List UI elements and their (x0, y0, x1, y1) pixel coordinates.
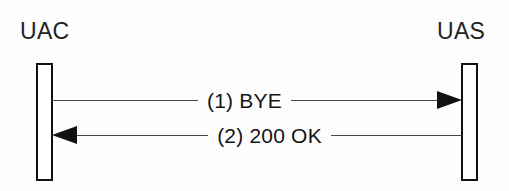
message-row-bye: (1) BYE (52, 85, 462, 115)
message-line-left-segment (52, 100, 198, 101)
sequence-diagram: UAC UAS (1) BYE (2) 200 OK (0, 0, 509, 191)
message-label-bye: (1) BYE (198, 90, 291, 111)
message-line-right-segment (331, 135, 462, 136)
lifeline-bar-uas (461, 63, 478, 181)
arrow-head-left-icon (52, 126, 77, 144)
message-line-left-segment (77, 135, 208, 136)
lifeline-bar-uac (36, 63, 53, 181)
message-row-200-ok: (2) 200 OK (52, 120, 462, 150)
endpoint-label-uas: UAS (437, 20, 485, 43)
message-line-right-segment (291, 100, 437, 101)
endpoint-label-uac: UAC (20, 20, 69, 43)
message-label-200-ok: (2) 200 OK (208, 125, 331, 146)
arrow-head-right-icon (437, 91, 462, 109)
